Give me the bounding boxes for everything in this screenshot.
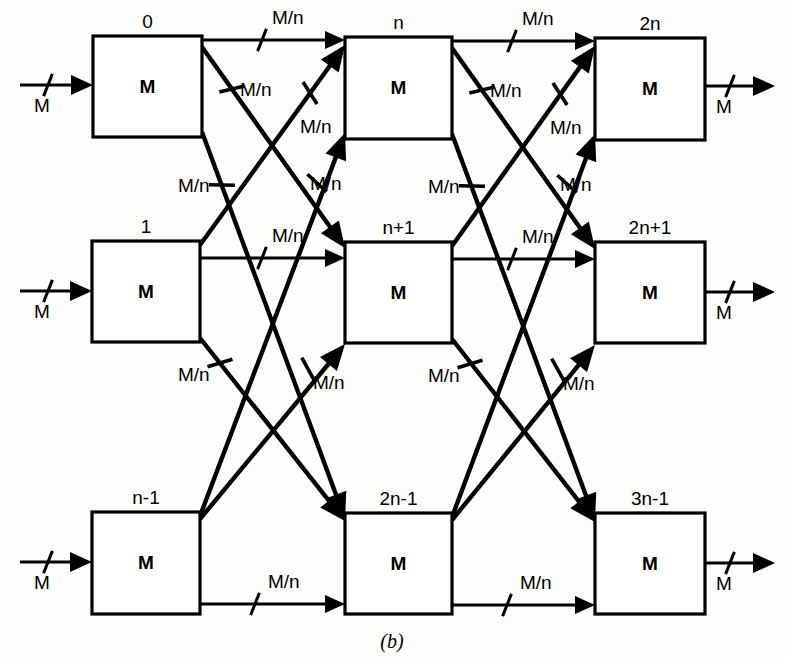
edge-label: M/n: [178, 364, 210, 385]
node-r2c0[interactable]: M: [92, 512, 200, 614]
input-in-row-0: [20, 74, 93, 96]
node-r0c2[interactable]: M: [595, 38, 705, 140]
module-label: M: [138, 552, 154, 573]
edge-label: M/n: [522, 8, 554, 29]
module-index-label: n-1: [132, 487, 159, 508]
module-index-label: 2n+1: [629, 217, 672, 238]
edge-label: M/n: [178, 175, 210, 196]
node-r2c1[interactable]: M: [345, 513, 452, 614]
edge-label: M/n: [428, 176, 460, 197]
module-index-label: 0: [142, 11, 153, 32]
arrowhead-icon: [753, 282, 775, 302]
module-label: M: [642, 553, 658, 574]
edge-label: M/n: [300, 116, 332, 137]
input-in-row-1: [20, 280, 92, 302]
module-index-label: 1: [141, 216, 152, 237]
module-index-label: 2n: [639, 13, 660, 34]
edge-line: [200, 146, 340, 516]
bus-width-tick-icon: [209, 185, 235, 186]
arrowhead-icon: [576, 134, 597, 162]
edge-e-r2c0-r2c1: [200, 593, 345, 615]
arrowhead-icon: [575, 32, 595, 50]
arrowhead-icon: [325, 249, 345, 267]
edge-label: M/n: [268, 571, 300, 592]
edge-e-r0c1-r0c2: [452, 30, 595, 52]
edge-e-r0c0-r0c1: [202, 29, 345, 51]
module-index-label: 3n-1: [631, 488, 669, 509]
edge-e-r1c1-r1c2: [452, 248, 595, 270]
output-out-row-2: [705, 552, 775, 574]
node-r0c0[interactable]: M: [93, 36, 202, 137]
node-r1c0[interactable]: M: [92, 241, 200, 342]
output-label: M: [716, 96, 732, 117]
bus-width-tick-icon: [459, 186, 485, 187]
network-diagram: MMMMMMMMM M/nM/nM/nM/nM/nM/nM/nM/nM/nM/n…: [0, 0, 786, 661]
arrowhead-icon: [326, 133, 347, 161]
edge-line: [452, 147, 590, 517]
arrowhead-icon: [71, 75, 93, 95]
output-out-row-1: [705, 281, 775, 303]
arrowhead-icon: [70, 552, 92, 572]
edge-label: M/n: [520, 572, 552, 593]
arrowhead-icon: [571, 46, 595, 74]
arrowhead-icon: [575, 596, 595, 614]
edge-label: M/n: [560, 174, 592, 195]
arrowhead-icon: [753, 553, 775, 573]
edge-label: M/n: [550, 117, 582, 138]
input-label: M: [34, 95, 50, 116]
arrowhead-icon: [321, 45, 345, 73]
edge-label: M/n: [522, 226, 554, 247]
arrowhead-icon: [70, 281, 92, 301]
module-label: M: [642, 78, 658, 99]
node-r0c1[interactable]: M: [345, 37, 452, 139]
input-label: M: [34, 301, 50, 322]
output-out-row-0: [705, 75, 775, 97]
module-label: M: [140, 76, 156, 97]
output-label: M: [716, 573, 732, 594]
edge-e-r2c1-r2c2: [452, 594, 595, 616]
module-index-label: n: [393, 12, 404, 33]
node-layer: MMMMMMMMM: [92, 36, 705, 614]
edge-label: M/n: [272, 225, 304, 246]
arrowhead-icon: [753, 76, 775, 96]
node-r1c2[interactable]: M: [595, 242, 705, 343]
module-label: M: [391, 77, 407, 98]
node-r1c1[interactable]: M: [345, 242, 452, 343]
input-label: M: [34, 572, 50, 593]
edge-label: M/n: [272, 7, 304, 28]
arrowhead-icon: [321, 220, 345, 248]
node-r2c2[interactable]: M: [595, 513, 705, 614]
edge-label: M/n: [428, 365, 460, 386]
module-label: M: [642, 282, 658, 303]
figure-canvas: MMMMMMMMM M/nM/nM/nM/nM/nM/nM/nM/nM/nM/n…: [0, 0, 786, 661]
edge-e-r1c0-r1c1: [200, 247, 345, 269]
input-in-row-2: [20, 551, 92, 573]
module-index-label: 2n-1: [379, 488, 417, 509]
arrowhead-icon: [571, 221, 595, 249]
module-label: M: [138, 281, 154, 302]
module-label: M: [391, 553, 407, 574]
arrowhead-icon: [325, 595, 345, 613]
module-label: M: [391, 282, 407, 303]
edge-label: M/n: [310, 173, 342, 194]
output-label: M: [716, 302, 732, 323]
arrowhead-icon: [575, 250, 595, 268]
edge-label: M/n: [313, 372, 345, 393]
figure-caption: (b): [380, 630, 404, 653]
arrowhead-icon: [325, 31, 345, 49]
edge-label: M/n: [490, 80, 522, 101]
edge-label: M/n: [240, 79, 272, 100]
module-index-label: n+1: [382, 217, 414, 238]
edge-label: M/n: [563, 373, 595, 394]
